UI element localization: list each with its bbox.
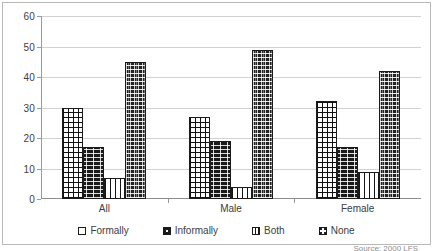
y-axis-tick-mark (37, 138, 41, 139)
y-axis-tick-mark (37, 199, 41, 200)
x-axis-tick-mark (168, 199, 169, 203)
bar-female-informally[interactable] (337, 147, 358, 199)
bar-group-all (62, 16, 146, 199)
bar-female-none[interactable] (379, 71, 400, 199)
legend-label: Both (264, 225, 285, 236)
y-axis-line (41, 16, 42, 199)
legend-swatch-icon (319, 227, 327, 235)
bar-all-formally[interactable] (62, 108, 83, 200)
y-axis-tick-label: 60 (23, 11, 35, 22)
y-axis-tick-label: 20 (23, 133, 35, 144)
y-axis-tick-label: 10 (23, 163, 35, 174)
x-axis-label-all: All (99, 203, 110, 214)
y-axis-tick-mark (37, 169, 41, 170)
legend-label: Informally (175, 225, 218, 236)
legend-item-formally[interactable]: Formally (78, 225, 128, 236)
chart-legend: FormallyInformallyBothNone (3, 225, 430, 236)
bar-male-formally[interactable] (189, 117, 210, 199)
y-axis-tick-label: 30 (23, 102, 35, 113)
legend-swatch-icon (163, 227, 171, 235)
bar-group-male (189, 16, 273, 199)
bar-male-informally[interactable] (210, 141, 231, 199)
legend-label: Formally (90, 225, 128, 236)
chart-frame: 0102030405060 AllMaleFemale FormallyInfo… (2, 2, 431, 245)
legend-item-both[interactable]: Both (252, 225, 285, 236)
x-axis-tick-mark (294, 199, 295, 203)
y-axis-tick-mark (37, 47, 41, 48)
bar-female-formally[interactable] (316, 101, 337, 199)
legend-item-none[interactable]: None (319, 225, 355, 236)
legend-label: None (331, 225, 355, 236)
x-axis-label-male: Male (220, 203, 242, 214)
y-axis-tick-mark (37, 77, 41, 78)
source-note: Source: 2000 LFS (354, 244, 418, 251)
legend-swatch-icon (78, 227, 86, 235)
plot-area: 0102030405060 (41, 16, 421, 199)
y-axis-tick-label: 50 (23, 41, 35, 52)
bar-all-both[interactable] (104, 178, 125, 199)
bar-male-both[interactable] (231, 187, 252, 199)
bar-female-both[interactable] (358, 172, 379, 199)
y-axis-tick-mark (37, 16, 41, 17)
legend-item-informally[interactable]: Informally (163, 225, 218, 236)
y-axis-tick-label: 0 (29, 194, 35, 205)
x-axis-label-female: Female (341, 203, 374, 214)
bar-all-none[interactable] (125, 62, 146, 199)
y-axis-tick-label: 40 (23, 72, 35, 83)
legend-swatch-icon (252, 227, 260, 235)
y-axis-tick-mark (37, 108, 41, 109)
bar-all-informally[interactable] (83, 147, 104, 199)
bar-male-none[interactable] (252, 50, 273, 199)
bar-group-female (316, 16, 400, 199)
